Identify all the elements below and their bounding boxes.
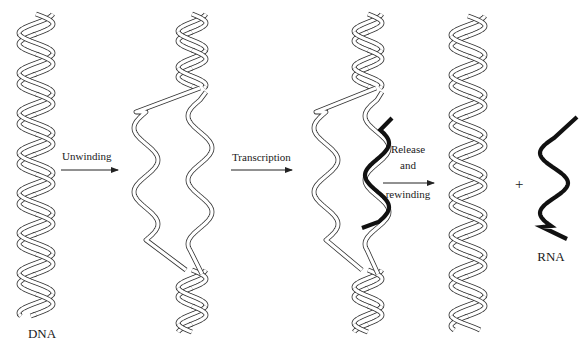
transcribing-top-strand-b [380,86,382,88]
transcription-label: Transcription [232,152,291,163]
unwound-right-strand-outline [188,92,212,274]
transcription-diagram [0,0,583,346]
transcribing-dna-helix [314,14,392,332]
rna-strand [540,117,577,239]
dna-strand-a [31,314,36,316]
and-label: and [400,160,416,171]
plus-sign: + [515,177,523,192]
released-rna-strand [540,117,577,239]
unwound-right-strand [188,92,212,274]
dna-label: DNA [28,327,56,340]
unwound-top-strand-b [204,86,206,88]
rewinding-label: rewinding [386,189,431,200]
rewound-dna-helix [451,16,485,330]
unwinding-label: Unwinding [62,151,112,162]
dna-double-helix [19,14,53,316]
unwound-dna-helix [134,14,212,332]
release-label: Release [391,144,425,155]
rna-label: RNA [537,250,564,263]
dna-strand-b [19,314,21,316]
